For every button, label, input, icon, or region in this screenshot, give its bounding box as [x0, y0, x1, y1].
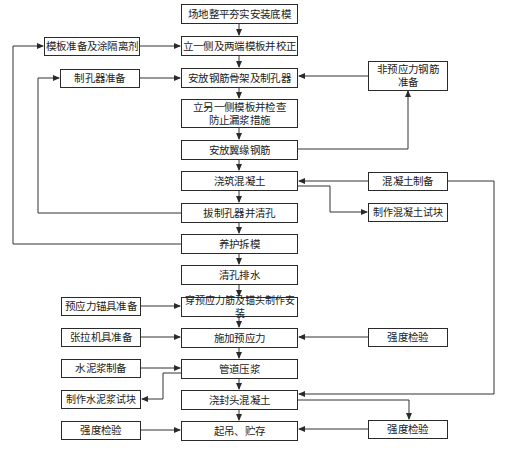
step-label: 立一侧及两端模板并校正: [183, 40, 296, 53]
step-label: 安放钢筋骨架及制孔器: [188, 72, 291, 85]
step-label: 管道压浆: [219, 363, 260, 376]
step-label: 模板准备及涂隔离剂: [46, 40, 139, 53]
step-end-sealing: 浇封头混凝土: [181, 390, 298, 410]
step-label: 强度检验: [80, 424, 121, 437]
step-label: 制作水泥浆试块: [66, 393, 136, 406]
step-label: 浇封头混凝土: [209, 394, 271, 407]
step-label: 养护拆模: [219, 238, 260, 251]
step-lift-storage: 起吊、贮存: [181, 421, 298, 441]
step-label: 立另一侧模板并检查 防止漏浆措施: [193, 101, 286, 127]
step-label: 制作混凝土试块: [373, 206, 443, 219]
step-label: 浇筑混凝土: [214, 175, 266, 188]
step-place-rebar-cage: 安放钢筋骨架及制孔器: [181, 68, 298, 88]
step-thread-tendons: 穿预应力筋及锚头制作安装: [181, 297, 298, 317]
step-erect-other-side: 立另一侧模板并检查 防止漏浆措施: [181, 99, 298, 128]
step-label: 拔制孔器并清孔: [203, 207, 275, 220]
step-label: 非预应力钢筋 准备: [377, 63, 439, 89]
strength-test-right-prestress: 强度检验: [368, 328, 448, 347]
step-pour-concrete: 浇筑混凝土: [181, 171, 298, 191]
prep-non-prestressed-rebar: 非预应力钢筋 准备: [368, 61, 448, 91]
step-apply-prestress: 施加预应力: [181, 328, 298, 348]
strength-test-left: 强度检验: [61, 421, 141, 440]
step-label: 安放翼缘钢筋: [209, 144, 271, 157]
step-erect-side-formwork: 立一侧及两端模板并校正: [181, 36, 298, 56]
step-remove-hole-former: 拔制孔器并清孔: [181, 203, 298, 223]
step-label: 水泥浆制备: [75, 362, 127, 375]
strength-test-right-storage: 强度检验: [368, 420, 448, 439]
step-clean-drain: 清孔排水: [181, 265, 298, 285]
prep-hole-former: 制孔器准备: [60, 69, 140, 88]
step-label: 场地整平夯实安装底模: [188, 8, 291, 21]
concrete-test-block: 制作混凝土试块: [368, 203, 448, 222]
step-label: 混凝土制备: [382, 175, 434, 188]
step-grouting: 管道压浆: [181, 359, 298, 379]
step-label: 穿预应力筋及锚头制作安装: [182, 294, 297, 320]
prep-formwork: 模板准备及涂隔离剂: [44, 37, 140, 56]
step-label: 制孔器准备: [74, 72, 126, 85]
step-label: 张拉机具准备: [70, 331, 132, 344]
grout-test-block: 制作水泥浆试块: [61, 390, 141, 409]
prep-tensioning-equipment: 张拉机具准备: [61, 328, 141, 347]
step-label: 强度检验: [387, 423, 428, 436]
prep-cement-grout: 水泥浆制备: [61, 359, 141, 378]
step-label: 预应力锚具准备: [65, 300, 137, 313]
prep-anchorage: 预应力锚具准备: [61, 297, 141, 316]
step-label: 施加预应力: [214, 332, 266, 345]
prep-concrete: 混凝土制备: [368, 172, 448, 191]
step-label: 强度检验: [387, 331, 428, 344]
step-label: 起吊、贮存: [214, 425, 266, 438]
step-site-leveling: 场地整平夯实安装底模: [181, 4, 298, 24]
step-curing: 养护拆模: [181, 234, 298, 254]
step-label: 清孔排水: [219, 269, 260, 282]
step-flange-rebar: 安放翼缘钢筋: [181, 140, 298, 160]
